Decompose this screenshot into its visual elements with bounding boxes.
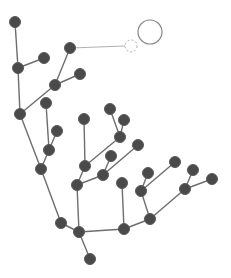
tree-node-n23[interactable]	[85, 254, 96, 265]
tree-node-n21[interactable]	[56, 218, 67, 229]
tree-edge	[41, 169, 61, 223]
tree-node-n18[interactable]	[80, 161, 91, 172]
tree-edge	[79, 229, 124, 232]
tree-node-n29[interactable]	[170, 157, 181, 168]
tree-edge	[15, 22, 18, 68]
tree-node-n15[interactable]	[115, 132, 126, 143]
tree-diagram	[0, 0, 231, 278]
target-drop-circle[interactable]	[138, 20, 162, 44]
ghost-node-placeholder[interactable]	[125, 40, 137, 52]
tree-node-n27[interactable]	[143, 168, 154, 179]
tree-node-n31[interactable]	[180, 184, 191, 195]
tree-edge	[150, 189, 185, 219]
tree-node-n32[interactable]	[207, 174, 218, 185]
tree-node-n3[interactable]	[39, 53, 50, 64]
tree-node-n10[interactable]	[44, 145, 55, 156]
tree-node-n5[interactable]	[50, 80, 61, 91]
tree-node-n7[interactable]	[15, 109, 26, 120]
tree-node-n25[interactable]	[119, 224, 130, 235]
tree-node-n24[interactable]	[117, 178, 128, 189]
tree-node-n1[interactable]	[10, 17, 21, 28]
tree-node-n12[interactable]	[79, 114, 90, 125]
tree-node-n22[interactable]	[74, 227, 85, 238]
tree-node-n16[interactable]	[133, 140, 144, 151]
tree-node-n11[interactable]	[36, 164, 47, 175]
tree-edge	[20, 114, 41, 169]
tree-node-n26[interactable]	[145, 214, 156, 225]
tree-node-n8[interactable]	[41, 98, 52, 109]
tree-node-n14[interactable]	[119, 115, 130, 126]
tree-node-n20[interactable]	[72, 180, 83, 191]
tree-node-n6[interactable]	[75, 69, 86, 80]
drag-link-line	[70, 46, 125, 48]
node-layer	[10, 17, 218, 265]
tree-node-n4[interactable]	[65, 43, 76, 54]
tree-node-n13[interactable]	[105, 104, 116, 115]
tree-edge	[122, 183, 124, 229]
tree-node-n9[interactable]	[52, 126, 63, 137]
tree-edge	[77, 185, 79, 232]
tree-node-n2[interactable]	[13, 63, 24, 74]
tree-edge	[18, 68, 20, 114]
tree-edge	[84, 119, 85, 166]
tree-edge	[46, 103, 49, 150]
tree-node-n19[interactable]	[98, 170, 109, 181]
tree-node-n17[interactable]	[106, 151, 117, 162]
tree-node-n28[interactable]	[136, 186, 147, 197]
tree-node-n30[interactable]	[188, 165, 199, 176]
